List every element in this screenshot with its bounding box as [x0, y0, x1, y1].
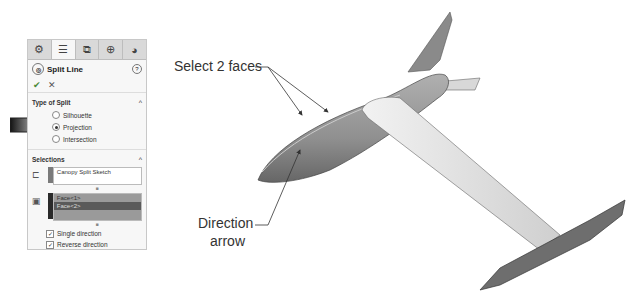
- tab-feature-manager[interactable]: ⚙: [28, 40, 52, 59]
- selections-header[interactable]: Selections ^: [28, 152, 146, 166]
- face-item[interactable]: Face<1>: [54, 194, 141, 202]
- help-icon[interactable]: ?: [132, 64, 142, 74]
- faces-selection-box[interactable]: Face<1> Face<2>: [53, 193, 142, 221]
- checkbox[interactable]: ✓: [46, 241, 54, 249]
- tab-dimxpert[interactable]: ⊕: [99, 40, 123, 59]
- configuration-manager-icon: ⧉: [83, 43, 91, 56]
- radio-button-selected[interactable]: [52, 123, 60, 131]
- tab-configuration-manager[interactable]: ⧉: [76, 40, 100, 59]
- radio-intersection[interactable]: Intersection: [28, 133, 146, 145]
- cancel-button[interactable]: ✕: [48, 80, 56, 90]
- type-of-split-header[interactable]: Type of Split ^: [28, 95, 146, 109]
- face-item-selected[interactable]: Face<2>: [54, 202, 141, 210]
- property-manager-icon: ☰: [58, 43, 68, 56]
- selections-heading: Selections: [32, 156, 65, 163]
- checkbox-label: Single direction: [57, 230, 101, 237]
- face-cube-icon: ▣: [32, 196, 46, 206]
- radio-projection[interactable]: Projection: [28, 121, 146, 133]
- direction-callout-line2: arrow: [210, 233, 245, 249]
- select-faces-callout: Select 2 faces: [174, 58, 262, 74]
- sketch-item[interactable]: Canopy Split Sketch: [54, 168, 141, 176]
- radio-label: Intersection: [63, 136, 97, 143]
- radio-button[interactable]: [52, 135, 60, 143]
- checkbox-label: Reverse direction: [57, 241, 108, 248]
- single-direction-checkbox[interactable]: ✓Single direction: [28, 228, 146, 239]
- display-manager-icon: ◕: [131, 44, 138, 56]
- radio-label: Silhouette: [63, 112, 92, 119]
- faces-selection-row: ▣ Face<1> Face<2>: [28, 193, 146, 221]
- reverse-direction-checkbox[interactable]: ✓Reverse direction: [28, 239, 146, 250]
- tab-display-manager[interactable]: ◕: [123, 40, 146, 59]
- radio-button[interactable]: [52, 111, 60, 119]
- split-line-icon: ◎: [32, 63, 44, 75]
- sketch-selection-box[interactable]: Canopy Split Sketch: [53, 167, 142, 185]
- resize-handle[interactable]: ■: [48, 185, 146, 192]
- sketch-icon: ⊏: [32, 170, 46, 180]
- ok-cancel-row: ✔ ✕: [28, 78, 146, 93]
- collapse-caret-icon[interactable]: ^: [139, 99, 142, 106]
- ok-button[interactable]: ✔: [33, 80, 41, 90]
- divider: [28, 149, 146, 150]
- feature-title: Split Line: [47, 65, 83, 74]
- feature-title-row: ◎ Split Line ?: [28, 60, 146, 78]
- tab-property-manager[interactable]: ☰: [52, 40, 76, 59]
- split-line-property-manager: ⚙ ☰ ⧉ ⊕ ◕ ◎ Split Line ? ✔ ✕ Type of Spl…: [27, 39, 147, 250]
- radio-silhouette[interactable]: Silhouette: [28, 109, 146, 121]
- manager-tabs: ⚙ ☰ ⧉ ⊕ ◕: [28, 40, 146, 60]
- type-of-split-heading: Type of Split: [32, 99, 71, 106]
- sketch-selection-row: ⊏ Canopy Split Sketch: [28, 167, 146, 185]
- checkbox[interactable]: ✓: [46, 230, 54, 238]
- collapse-caret-icon[interactable]: ^: [139, 156, 142, 163]
- radio-label: Projection: [63, 124, 92, 131]
- resize-handle[interactable]: ■: [48, 221, 146, 228]
- direction-callout-line1: Direction: [198, 215, 253, 231]
- dimxpert-icon: ⊕: [106, 43, 115, 56]
- feature-manager-icon: ⚙: [34, 43, 44, 56]
